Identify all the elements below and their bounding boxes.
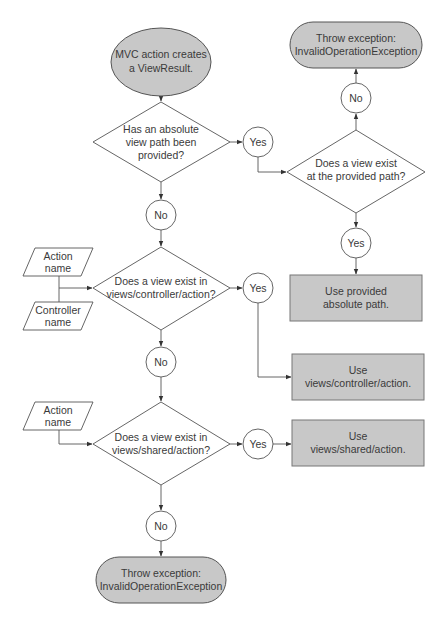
connector-yes-controller: Yes [243, 273, 273, 303]
decision-controller-line-2: views/controller/action? [106, 288, 215, 300]
decision-shared-action: Does a view exist in views/shared/action… [93, 402, 230, 485]
decision-exists-path-line-2: at the provided path? [307, 170, 406, 182]
input-action-name-1: Action name [23, 248, 93, 276]
connector-yes-exists-path: Yes [341, 228, 371, 258]
input-action-1-line-1: Action [43, 250, 72, 262]
connector-no-shared: No [146, 511, 176, 541]
connector-no-controller: No [146, 347, 176, 377]
decision-shared-line-2: views/shared/action? [112, 444, 210, 456]
decision-exists-path-line-1: Does a view exist [315, 157, 397, 169]
connector-no-absolute: No [146, 200, 176, 230]
use-absolute-line-1: Use provided [325, 285, 387, 297]
decision-absolute-line-1: Has an absolute [123, 123, 199, 135]
decision-shared-line-1: Does a view exist in [115, 431, 208, 443]
input-action-1-line-2: name [45, 262, 71, 274]
use-absolute-line-2: absolute path. [323, 298, 389, 310]
process-use-shared-action: Use views/shared/action. [292, 420, 424, 466]
input-action-2-line-2: name [45, 416, 71, 428]
connector-label: No [349, 92, 363, 104]
connector-label: No [154, 520, 168, 532]
throw-bottom-line-1: Throw exception: [121, 567, 201, 579]
use-shared-line-1: Use [349, 430, 368, 442]
decision-exists-at-path: Does a view exist at the provided path? [287, 130, 425, 213]
throw-exception-bottom: Throw exception: InvalidOperationExcepti… [96, 557, 226, 603]
throw-top-line-2: InvalidOperationException [295, 45, 418, 57]
edge-yes-to-exists-path [258, 157, 286, 172]
throw-top-line-1: Throw exception: [316, 32, 396, 44]
decision-controller-action: Does a view exist in views/controller/ac… [93, 247, 230, 330]
input-action-2-line-1: Action [43, 404, 72, 416]
connector-yes-shared: Yes [243, 429, 273, 459]
edge-action2-to-shared [59, 430, 92, 444]
process-use-controller-action: Use views/controller/action. [292, 354, 424, 400]
start-node: MVC action creates a ViewResult. [111, 28, 211, 96]
use-shared-line-2: views/shared/action. [310, 443, 405, 455]
connector-yes-absolute: Yes [243, 127, 273, 157]
input-action-name-2: Action name [23, 402, 93, 430]
input-controller-line-1: Controller [35, 304, 81, 316]
decision-absolute-line-2: view path been [126, 136, 197, 148]
decision-controller-line-1: Does a view exist in [115, 275, 208, 287]
connector-label: Yes [347, 237, 364, 249]
process-use-absolute-path: Use provided absolute path. [290, 275, 422, 321]
connector-label: No [154, 209, 168, 221]
connector-label: Yes [249, 438, 266, 450]
use-controller-line-2: views/controller/action. [305, 377, 411, 389]
input-controller-line-2: name [45, 316, 71, 328]
decision-absolute-line-3: provided? [138, 149, 184, 161]
use-controller-line-1: Use [349, 364, 368, 376]
edge-yes-to-use-controller [258, 303, 291, 377]
decision-absolute-path: Has an absolute view path been provided? [93, 102, 230, 182]
start-line-2: a ViewResult. [129, 62, 193, 74]
connector-label: No [154, 356, 168, 368]
flowchart-canvas: MVC action creates a ViewResult. Throw e… [0, 0, 442, 620]
connector-label: Yes [249, 136, 266, 148]
connector-label: Yes [249, 282, 266, 294]
input-controller-name: Controller name [23, 302, 93, 330]
throw-exception-top: Throw exception: InvalidOperationExcepti… [290, 22, 422, 68]
start-line-1: MVC action creates [115, 48, 207, 60]
connector-no-exists-path: No [341, 83, 371, 113]
throw-bottom-line-2: InvalidOperationException [100, 580, 223, 592]
